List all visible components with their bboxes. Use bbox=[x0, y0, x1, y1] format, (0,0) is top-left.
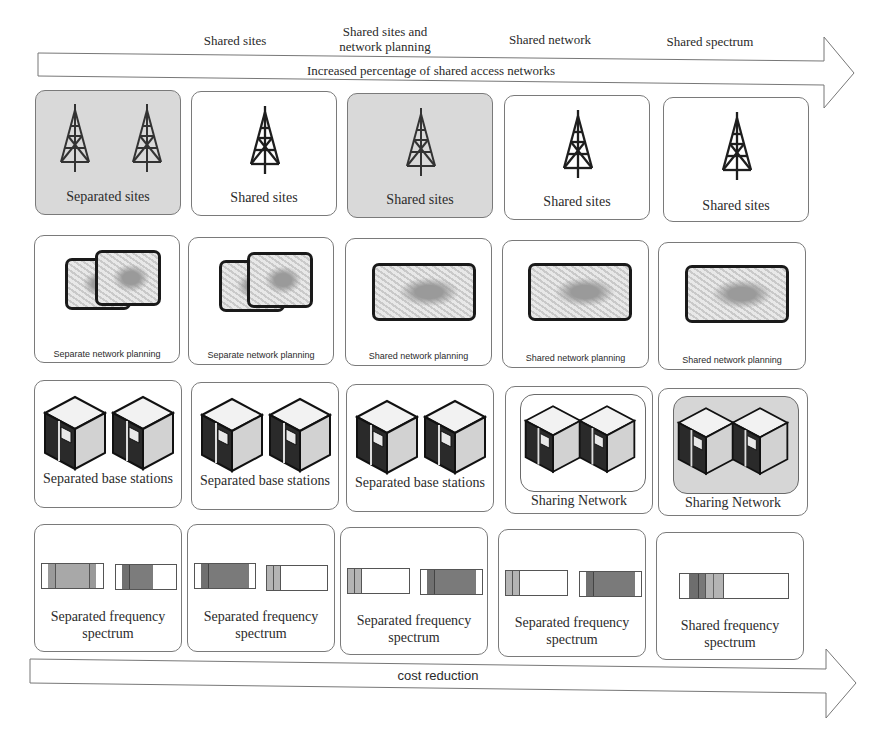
server-cabinet-icon bbox=[109, 393, 177, 473]
spectrum-bar-icon bbox=[505, 570, 568, 596]
card-label: Separate network planning bbox=[189, 350, 333, 360]
card-label: Shared sites bbox=[348, 192, 492, 208]
card-label-line2: spectrum bbox=[188, 625, 334, 642]
map-icon bbox=[95, 250, 161, 306]
tower-icon bbox=[248, 106, 282, 176]
top-arrow-label: Increased percentage of shared access ne… bbox=[36, 63, 826, 79]
spectrum-bar-icon bbox=[266, 565, 328, 591]
card-label: Separated frequency spectrum bbox=[188, 608, 334, 642]
bottom-arrow-label: cost reduction bbox=[28, 668, 848, 683]
card-spectrum-1: Separated frequency spectrum bbox=[34, 524, 182, 652]
spectrum-bar-icon bbox=[347, 568, 410, 594]
card-spectrum-4: Separated frequency spectrum bbox=[498, 529, 646, 657]
server-cabinet-icon bbox=[522, 399, 584, 479]
card-label: Separated base stations bbox=[347, 475, 493, 491]
card-sites-3: Shared sites bbox=[347, 93, 493, 218]
spectrum-bar-icon bbox=[679, 573, 789, 599]
spectrum-bar-icon bbox=[420, 569, 483, 595]
card-label-line1: Separated frequency bbox=[188, 608, 334, 625]
card-planning-3: Shared network planning bbox=[345, 238, 492, 366]
server-cabinet-icon bbox=[266, 395, 334, 475]
card-label: Shared sites bbox=[505, 194, 649, 210]
card-label: Separated base stations bbox=[192, 473, 338, 489]
card-label-line2: spectrum bbox=[35, 625, 181, 642]
card-label: Separated frequency spectrum bbox=[499, 614, 645, 648]
card-planning-4: Shared network planning bbox=[502, 240, 649, 368]
arrow-shape-icon bbox=[28, 648, 858, 720]
card-label: Sharing Network bbox=[659, 495, 807, 511]
card-planning-2: Separate network planning bbox=[188, 237, 334, 365]
server-cabinet-icon bbox=[421, 397, 489, 477]
card-label-line1: Separated frequency bbox=[35, 608, 181, 625]
card-bs-1: Separated base stations bbox=[34, 380, 182, 508]
card-label: Shared sites bbox=[664, 198, 808, 214]
card-label-line1: Separated frequency bbox=[341, 612, 487, 629]
card-sites-1: Separated sites bbox=[35, 90, 181, 215]
spectrum-bar-icon bbox=[579, 571, 642, 597]
card-label: Shared frequency spectrum bbox=[657, 617, 803, 651]
card-bs-2: Separated base stations bbox=[191, 382, 339, 510]
server-cabinet-icon bbox=[675, 401, 737, 481]
bottom-arrow: cost reduction bbox=[28, 648, 858, 720]
map-icon bbox=[247, 252, 313, 308]
card-label: Sharing Network bbox=[506, 493, 652, 509]
server-cabinet-icon bbox=[576, 399, 638, 479]
card-spectrum-5: Shared frequency spectrum bbox=[656, 532, 804, 660]
server-cabinet-icon bbox=[353, 397, 421, 477]
card-bs-5: Sharing Network bbox=[658, 388, 808, 516]
card-label: Shared sites bbox=[192, 190, 336, 206]
card-label: Shared network planning bbox=[503, 353, 648, 363]
card-planning-5: Shared network planning bbox=[658, 242, 806, 370]
server-cabinet-icon bbox=[198, 395, 266, 475]
card-label: Shared network planning bbox=[346, 351, 491, 361]
card-label-line1: Shared frequency bbox=[657, 617, 803, 634]
card-spectrum-2: Separated frequency spectrum bbox=[187, 524, 335, 652]
card-sites-5: Shared sites bbox=[663, 97, 809, 222]
card-label-line1: Separated frequency bbox=[499, 614, 645, 631]
spectrum-bar-icon bbox=[41, 563, 104, 589]
tower-icon bbox=[404, 108, 438, 178]
server-cabinet-icon bbox=[41, 393, 109, 473]
card-label: Shared network planning bbox=[659, 355, 805, 365]
tower-icon bbox=[130, 104, 164, 174]
card-bs-3: Separated base stations bbox=[346, 384, 494, 512]
card-planning-1: Separate network planning bbox=[34, 235, 180, 363]
tower-icon bbox=[720, 112, 754, 182]
tower-icon bbox=[561, 110, 595, 180]
map-icon bbox=[372, 263, 476, 321]
card-bs-4: Sharing Network bbox=[505, 386, 653, 514]
spectrum-bar-icon bbox=[115, 564, 177, 590]
card-label: Separated frequency spectrum bbox=[341, 612, 487, 646]
spectrum-bar-icon bbox=[194, 563, 256, 589]
map-icon bbox=[528, 263, 632, 321]
card-label-line2: spectrum bbox=[341, 629, 487, 646]
server-cabinet-icon bbox=[729, 401, 791, 481]
card-sites-4: Shared sites bbox=[504, 95, 650, 220]
card-label: Separate network planning bbox=[35, 349, 179, 359]
card-label: Separated base stations bbox=[35, 471, 181, 487]
map-icon bbox=[685, 265, 789, 323]
card-label-line2: spectrum bbox=[499, 631, 645, 648]
card-sites-2: Shared sites bbox=[191, 91, 337, 216]
card-label: Separated sites bbox=[36, 189, 180, 205]
card-label: Separated frequency spectrum bbox=[35, 608, 181, 642]
card-spectrum-3: Separated frequency spectrum bbox=[340, 527, 488, 655]
tower-icon bbox=[58, 104, 92, 174]
